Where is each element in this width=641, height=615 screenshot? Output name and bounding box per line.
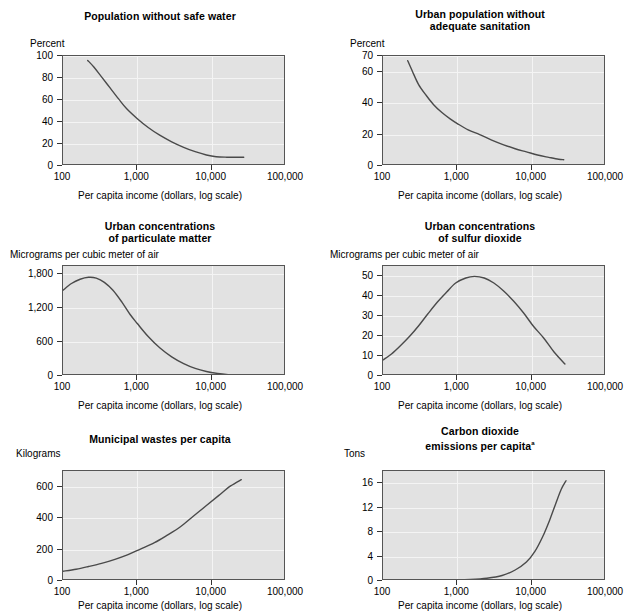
plot-area (382, 265, 605, 375)
y-axis-tick-label: 12 (313, 501, 373, 512)
chart-title: Urban concentrationsof sulfur dioxide (320, 220, 640, 244)
x-axis-tick-label: 10,000 (195, 586, 226, 597)
x-axis-label: Per capita income (dollars, log scale) (0, 190, 320, 201)
chart-title: Municipal wastes per capita (0, 433, 320, 445)
y-axis-tick (57, 55, 62, 56)
y-axis-tick (377, 315, 382, 316)
chart-panel-population-without-safe-water: Population without safe waterPercent0204… (0, 0, 320, 205)
x-axis-tick (531, 580, 532, 585)
y-axis-tick-label: 1,200 (0, 302, 53, 313)
y-axis-tick (57, 165, 62, 166)
x-axis-label: Per capita income (dollars, log scale) (320, 190, 640, 201)
chart-panel-urban-concentrations-of-sulfur-dioxide: Urban concentrationsof sulfur dioxideMic… (320, 205, 640, 410)
x-axis-tick-label: 1,000 (124, 381, 149, 392)
x-axis-tick (136, 375, 137, 380)
y-axis-tick (377, 165, 382, 166)
x-axis-tick-label: 100 (54, 586, 71, 597)
x-axis-tick-label: 10,000 (515, 586, 546, 597)
y-axis-tick-label: 30 (313, 310, 373, 321)
x-axis-tick-label: 10,000 (515, 381, 546, 392)
plot-area-wrapper: 010203040501001,00010,000100,000 (382, 265, 605, 375)
data-curve (383, 56, 605, 165)
y-axis-tick (57, 375, 62, 376)
x-axis-label: Per capita income (dollars, log scale) (0, 400, 320, 411)
x-axis-tick (211, 165, 212, 170)
y-axis-tick-label: 600 (0, 336, 53, 347)
chart-title: Population without safe water (0, 10, 320, 22)
x-axis-tick-label: 100,000 (267, 171, 303, 182)
x-axis-label: Per capita income (dollars, log scale) (0, 600, 320, 611)
y-axis-tick (377, 55, 382, 56)
y-axis-tick (377, 102, 382, 103)
chart-panel-urban-population-without-adequate-sanitation: Urban population withoutadequate sanitat… (320, 0, 640, 205)
y-axis-label: Percent (350, 38, 384, 49)
y-axis-tick (377, 275, 382, 276)
chart-title-line: of particulate matter (0, 232, 320, 244)
y-axis-label: Percent (30, 38, 64, 49)
y-axis-label: Kilograms (16, 448, 60, 459)
y-axis-tick (57, 121, 62, 122)
chart-title-line: Population without safe water (0, 10, 320, 22)
chart-title-line: Urban concentrations (0, 220, 320, 232)
y-axis-tick (377, 355, 382, 356)
x-axis-tick (456, 580, 457, 585)
x-axis-tick (136, 580, 137, 585)
y-axis-tick-label: 100 (0, 50, 53, 61)
chart-title-line: emissions per capitaa (320, 437, 640, 452)
y-axis-tick (57, 517, 62, 518)
y-axis-tick-label: 1,800 (0, 268, 53, 279)
y-axis-tick-label: 20 (0, 138, 53, 149)
y-axis-tick-label: 0 (313, 370, 373, 381)
x-axis-label: Per capita income (dollars, log scale) (320, 400, 640, 411)
x-axis-tick-label: 100,000 (267, 381, 303, 392)
x-axis-tick (211, 375, 212, 380)
chart-title-line: of sulfur dioxide (320, 232, 640, 244)
chart-title: Urban population withoutadequate sanitat… (320, 8, 640, 32)
y-axis-tick-label: 40 (313, 290, 373, 301)
y-axis-tick (57, 77, 62, 78)
plot-area-wrapper: 0204060701001,00010,000100,000 (382, 55, 605, 165)
y-axis-tick (57, 486, 62, 487)
y-axis-tick (57, 143, 62, 144)
x-axis-tick (211, 580, 212, 585)
x-axis-tick-label: 100 (54, 171, 71, 182)
y-axis-tick (377, 507, 382, 508)
y-axis-tick (57, 273, 62, 274)
plot-area-wrapper: 04812161001,00010,000100,000 (382, 470, 605, 580)
chart-title-line: Urban population without (320, 8, 640, 20)
x-axis-tick-label: 100,000 (587, 586, 623, 597)
y-axis-tick (57, 307, 62, 308)
y-axis-label: Micrograms per cubic meter of air (330, 249, 479, 260)
x-axis-tick-label: 100 (374, 381, 391, 392)
y-axis-tick (57, 580, 62, 581)
y-axis-label: Tons (344, 448, 365, 459)
y-axis-tick-label: 10 (313, 350, 373, 361)
x-axis-tick-label: 1,000 (444, 381, 469, 392)
x-axis-label: Per capita income (dollars, log scale) (320, 600, 640, 611)
plot-area (382, 55, 605, 165)
y-axis-tick-label: 50 (313, 270, 373, 281)
chart-title: Carbon dioxideemissions per capitaa (320, 425, 640, 452)
y-axis-tick (57, 341, 62, 342)
chart-panel-municipal-wastes-per-capita: Municipal wastes per capitaKilograms0200… (0, 415, 320, 615)
y-axis-tick-label: 0 (313, 575, 373, 586)
y-axis-tick (377, 134, 382, 135)
y-axis-tick-label: 400 (0, 512, 53, 523)
x-axis-tick-label: 10,000 (195, 171, 226, 182)
x-axis-tick-label: 1,000 (444, 171, 469, 182)
x-axis-tick-label: 100,000 (587, 171, 623, 182)
y-axis-tick-label: 20 (313, 330, 373, 341)
y-axis-tick-label: 80 (0, 72, 53, 83)
data-curve (383, 266, 605, 375)
y-axis-tick (377, 580, 382, 581)
x-axis-tick (456, 165, 457, 170)
environmental-indicators-figure: Population without safe waterPercent0204… (0, 0, 641, 615)
y-axis-tick-label: 0 (0, 160, 53, 171)
chart-title-line: Municipal wastes per capita (0, 433, 320, 445)
y-axis-tick (377, 335, 382, 336)
y-axis-tick-label: 70 (313, 50, 373, 61)
y-axis-tick (57, 99, 62, 100)
plot-area-wrapper: 06001,2001,8001001,00010,000100,000 (62, 265, 285, 375)
y-axis-tick-label: 40 (0, 116, 53, 127)
y-axis-tick-label: 16 (313, 477, 373, 488)
